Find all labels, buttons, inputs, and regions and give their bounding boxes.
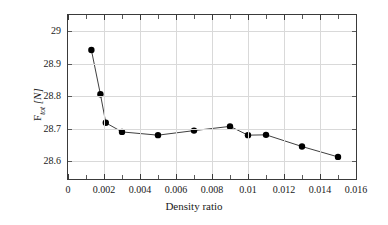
y-tick-mark xyxy=(352,31,356,32)
x-tick-mark-top xyxy=(104,15,105,20)
x-minor-tick xyxy=(194,15,195,19)
x-tick-mark xyxy=(356,174,357,179)
x-tick-label: 0 xyxy=(66,185,71,195)
y-tick-mark xyxy=(68,96,72,97)
x-minor-tick xyxy=(86,15,87,19)
x-minor-tick xyxy=(158,15,159,19)
series-polyline xyxy=(91,50,338,157)
x-tick-mark-top xyxy=(140,15,141,20)
y-tick-mark xyxy=(68,64,72,65)
y-axis-title: Ftot [N] xyxy=(31,60,46,150)
x-tick-mark-top xyxy=(212,15,213,20)
y-tick-label: 29 xyxy=(28,26,61,36)
x-tick-mark xyxy=(176,174,177,179)
data-point-marker xyxy=(88,47,94,53)
x-minor-tick xyxy=(230,175,231,179)
y-axis-title-subscript: tot xyxy=(38,107,47,115)
y-tick-mark xyxy=(352,129,356,130)
x-tick-mark xyxy=(104,174,105,179)
x-tick-mark xyxy=(140,174,141,179)
x-axis-title: Density ratio xyxy=(0,200,388,212)
x-tick-mark-top xyxy=(68,15,69,20)
y-axis-title-unit: [N] xyxy=(31,88,43,104)
x-minor-tick xyxy=(266,15,267,19)
data-point-marker xyxy=(119,129,125,135)
data-point-marker xyxy=(335,154,341,160)
x-tick-mark-top xyxy=(176,15,177,20)
x-minor-tick xyxy=(230,15,231,19)
y-tick-label: 28.6 xyxy=(28,156,61,166)
x-tick-mark xyxy=(320,174,321,179)
grid-line-horizontal xyxy=(68,96,356,97)
x-minor-tick xyxy=(158,175,159,179)
data-point-marker xyxy=(299,143,305,149)
x-minor-tick xyxy=(302,15,303,19)
x-tick-mark-top xyxy=(356,15,357,20)
data-point-marker xyxy=(263,132,269,138)
y-tick-mark xyxy=(68,161,72,162)
y-tick-mark xyxy=(352,96,356,97)
x-tick-label: 0.01 xyxy=(239,185,257,195)
data-point-marker xyxy=(155,132,161,138)
y-axis-title-base: F xyxy=(31,115,43,121)
y-tick-mark xyxy=(68,129,72,130)
x-tick-mark xyxy=(212,174,213,179)
x-tick-label: 0.012 xyxy=(273,185,296,195)
x-tick-mark xyxy=(68,174,69,179)
chart-figure: 00.0020.0040.0060.0080.010.0120.0140.016… xyxy=(0,0,388,225)
plot-area xyxy=(67,14,357,180)
x-tick-mark xyxy=(284,174,285,179)
x-tick-label: 0.016 xyxy=(345,185,368,195)
x-minor-tick xyxy=(266,175,267,179)
x-tick-label: 0.004 xyxy=(129,185,152,195)
x-tick-label: 0.014 xyxy=(309,185,332,195)
grid-line-horizontal xyxy=(68,161,356,162)
grid-line-horizontal xyxy=(68,64,356,65)
x-minor-tick xyxy=(194,175,195,179)
x-tick-mark-top xyxy=(248,15,249,20)
x-minor-tick xyxy=(122,175,123,179)
y-tick-mark xyxy=(68,31,72,32)
x-tick-mark-top xyxy=(320,15,321,20)
x-tick-mark-top xyxy=(284,15,285,20)
x-minor-tick xyxy=(338,175,339,179)
x-tick-label: 0.008 xyxy=(201,185,224,195)
x-minor-tick xyxy=(302,175,303,179)
x-minor-tick xyxy=(338,15,339,19)
x-tick-mark xyxy=(248,174,249,179)
grid-line-horizontal xyxy=(68,31,356,32)
x-tick-label: 0.006 xyxy=(165,185,188,195)
x-minor-tick xyxy=(86,175,87,179)
y-tick-mark xyxy=(352,161,356,162)
y-tick-mark xyxy=(352,64,356,65)
x-tick-label: 0.002 xyxy=(93,185,116,195)
grid-line-horizontal xyxy=(68,129,356,130)
x-minor-tick xyxy=(122,15,123,19)
